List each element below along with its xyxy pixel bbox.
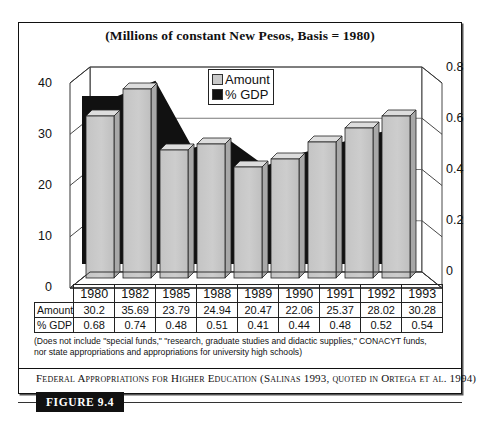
table-cell-gdp: 0.48 xyxy=(156,318,197,333)
chart-title: (Millions of constant New Pesos, Basis =… xyxy=(18,28,462,44)
table-rowlabel-gdp: % GDP xyxy=(35,318,74,333)
legend-item-amount: Amount xyxy=(212,72,270,86)
left-axis-tick-40: 40 xyxy=(26,76,52,90)
plot-area: Amount % GDP 40 30 20 10 0 0.8 0.6 0.4 0… xyxy=(18,50,462,290)
table-cell-amount: 22.06 xyxy=(279,303,320,318)
legend-item-gdp: % GDP xyxy=(212,87,270,101)
table-cell-amount: 23.79 xyxy=(156,303,197,318)
table-header-year: 1993 xyxy=(402,285,443,303)
left-axis-tick-20: 20 xyxy=(26,178,52,192)
bar-1989 xyxy=(234,161,268,278)
legend-label-amount: Amount xyxy=(225,73,270,86)
right-axis-tick-02: 0.2 xyxy=(446,213,476,227)
chart-data-table: 1980 1982 1985 1988 1989 1990 1991 1992 … xyxy=(34,284,443,333)
table-header-year: 1992 xyxy=(361,285,402,303)
bar-1992 xyxy=(345,122,379,278)
table-cell-gdp: 0.44 xyxy=(279,318,320,333)
right-axis-tick-0: 0 xyxy=(446,264,476,278)
table-header-year: 1982 xyxy=(115,285,156,303)
table-row-gdp: % GDP 0.68 0.74 0.48 0.51 0.41 0.44 0.48… xyxy=(35,318,443,333)
table-cell-amount: 20.47 xyxy=(238,303,279,318)
table-cell-amount: 25.37 xyxy=(320,303,361,318)
right-axis-tick-06: 0.6 xyxy=(446,111,476,125)
table-rowlabel-amount: Amount xyxy=(35,303,74,318)
table-header-year: 1985 xyxy=(156,285,197,303)
bar-1985 xyxy=(160,144,194,278)
table-header-year: 1991 xyxy=(320,285,361,303)
figure-number-badge: FIGURE 9.4 xyxy=(36,392,124,412)
table-cell-amount: 35.69 xyxy=(115,303,156,318)
table-cell-amount: 24.94 xyxy=(197,303,238,318)
table-cell-gdp: 0.52 xyxy=(361,318,402,333)
table-header-year: 1980 xyxy=(74,285,115,303)
bar-1993 xyxy=(382,110,416,278)
table-header-year: 1990 xyxy=(279,285,320,303)
table-corner-cell xyxy=(35,285,74,303)
right-axis-tick-08: 0.8 xyxy=(446,60,476,74)
table-cell-gdp: 0.41 xyxy=(238,318,279,333)
table-cell-gdp: 0.48 xyxy=(320,318,361,333)
legend-label-gdp: % GDP xyxy=(225,88,268,101)
bar-1980 xyxy=(86,110,120,278)
left-axis-tick-10: 10 xyxy=(26,229,52,243)
bar-1991 xyxy=(308,136,342,278)
left-axis-tick-30: 30 xyxy=(26,127,52,141)
table-row-years: 1980 1982 1985 1988 1989 1990 1991 1992 … xyxy=(35,285,443,303)
table-header-year: 1989 xyxy=(238,285,279,303)
bar-1988 xyxy=(197,138,231,278)
table-cell-gdp: 0.74 xyxy=(115,318,156,333)
table-cell-amount: 30.2 xyxy=(74,303,115,318)
table-header-year: 1988 xyxy=(197,285,238,303)
right-axis-tick-04: 0.4 xyxy=(446,162,476,176)
square-swatch-icon xyxy=(212,89,223,100)
bar-1982 xyxy=(123,83,157,278)
chart-footnote: (Does not include "special funds," "rese… xyxy=(34,336,438,358)
table-row-amount: Amount 30.2 35.69 23.79 24.94 20.47 22.0… xyxy=(35,303,443,318)
table-cell-amount: 30.28 xyxy=(402,303,443,318)
chart-legend: Amount % GDP xyxy=(208,69,274,105)
figure-container: (Millions of constant New Pesos, Basis =… xyxy=(0,0,482,424)
table-cell-gdp: 0.54 xyxy=(402,318,443,333)
table-cell-gdp: 0.68 xyxy=(74,318,115,333)
table-cell-gdp: 0.51 xyxy=(197,318,238,333)
bar-1990 xyxy=(271,153,305,278)
square-swatch-icon xyxy=(212,74,223,85)
table-cell-amount: 28.02 xyxy=(361,303,402,318)
figure-caption: Federal Appropriations for Higher Educat… xyxy=(36,372,456,384)
